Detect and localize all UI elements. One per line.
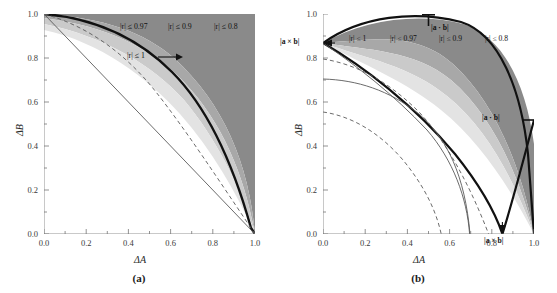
xtick-a-0: 0.0 bbox=[39, 238, 50, 248]
ytick-a-2: 0.4 bbox=[8, 141, 38, 151]
xaxis-label-a: ΔA bbox=[134, 254, 146, 265]
panel-b: |r| ≤ 1 |r| ≤ 0.97 |r| ≤ 0.9 |r| ≤ 0.8 |… bbox=[279, 0, 557, 293]
label-r-08-a: |r| ≤ 0.8 bbox=[214, 22, 238, 31]
ytick-a-5: 1.0 bbox=[8, 9, 38, 19]
plot-area-a: |r| ≤ 0.97 |r| ≤ 0.9 |r| ≤ 0.8 |r| ≤ 1 bbox=[44, 14, 255, 234]
label-r-097-a: |r| ≤ 0.97 bbox=[120, 22, 148, 31]
caption-b: (b) bbox=[279, 272, 557, 284]
xtick-a-3: 0.6 bbox=[165, 238, 176, 248]
xtick-b-1: 0.2 bbox=[360, 238, 371, 248]
label-r-1-b: |r| ≤ 1 bbox=[349, 34, 366, 43]
xaxis-label-b: ΔA bbox=[413, 254, 425, 265]
ytick-a-4: 0.8 bbox=[8, 53, 38, 63]
caption-a: (a) bbox=[0, 272, 278, 284]
panel-a: |r| ≤ 0.97 |r| ≤ 0.9 |r| ≤ 0.8 |r| ≤ 1 0… bbox=[0, 0, 278, 293]
ytick-b-5: 1.0 bbox=[287, 9, 317, 19]
xtick-b-2: 0.4 bbox=[402, 238, 413, 248]
xtick-a-1: 0.2 bbox=[81, 238, 92, 248]
xtick-b-0: 0.0 bbox=[318, 238, 329, 248]
plot-area-b: |r| ≤ 1 |r| ≤ 0.97 |r| ≤ 0.9 |r| ≤ 0.8 |… bbox=[323, 14, 534, 234]
xtick-a-5: 1.0 bbox=[250, 238, 261, 248]
label-r-097-b: |r| ≤ 0.97 bbox=[390, 34, 417, 43]
figure-two-panel-contour: |r| ≤ 0.97 |r| ≤ 0.9 |r| ≤ 0.8 |r| ≤ 1 0… bbox=[0, 0, 557, 293]
label-r-08-b: |r| ≤ 0.8 bbox=[485, 34, 508, 43]
xtick-b-3: 0.6 bbox=[444, 238, 455, 248]
yaxis-label-b: ΔB bbox=[293, 124, 304, 136]
ytick-b-1: 0.2 bbox=[287, 185, 317, 195]
ytick-a-1: 0.2 bbox=[8, 185, 38, 195]
label-r-09-a: |r| ≤ 0.9 bbox=[168, 22, 192, 31]
contour-plot-b bbox=[323, 14, 534, 234]
ytick-a-0: 0.0 bbox=[8, 229, 38, 239]
xtick-a-2: 0.4 bbox=[123, 238, 134, 248]
ytick-b-3: 0.6 bbox=[287, 97, 317, 107]
ytick-b-0: 0.0 bbox=[287, 229, 317, 239]
label-r-09-b: |r| ≤ 0.9 bbox=[439, 34, 462, 43]
label-cross-left-b: |a × b| bbox=[280, 37, 300, 46]
xtick-b-4: 0.8 bbox=[486, 238, 497, 248]
label-r-1-a: |r| ≤ 1 bbox=[127, 51, 145, 60]
contour-plot-a bbox=[44, 14, 255, 234]
ytick-b-2: 0.4 bbox=[287, 141, 317, 151]
ytick-b-4: 0.8 bbox=[287, 53, 317, 63]
ytick-a-3: 0.6 bbox=[8, 97, 38, 107]
label-dot-top-b: |a · b| bbox=[431, 23, 449, 32]
xtick-a-4: 0.8 bbox=[207, 238, 218, 248]
xtick-b-5: 1.0 bbox=[529, 238, 540, 248]
yaxis-label-a: ΔB bbox=[14, 124, 25, 136]
label-dot-right-b: |a · b| bbox=[482, 113, 500, 122]
